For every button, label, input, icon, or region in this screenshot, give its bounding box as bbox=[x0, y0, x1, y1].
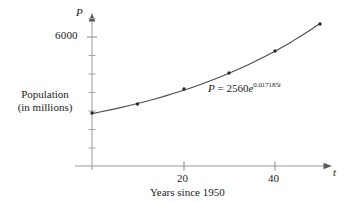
equation-exponent: 0.017185t bbox=[253, 81, 280, 89]
x-axis-symbol-label: t bbox=[333, 166, 336, 179]
curve-equation-annotation: P = 2560e0.017185t bbox=[208, 81, 281, 95]
data-point-20 bbox=[182, 87, 185, 90]
y-axis-tick-label-6000: 6000 bbox=[55, 29, 78, 42]
equation-exponent-variable: t bbox=[279, 81, 281, 89]
data-point-30 bbox=[227, 71, 230, 74]
y-axis-arrowhead bbox=[89, 13, 96, 22]
population-growth-chart: P t 6000 20 40 Population (in millions) … bbox=[0, 0, 346, 203]
exponential-fit-curve bbox=[92, 24, 320, 114]
x-axis-title: Years since 1950 bbox=[150, 186, 225, 199]
data-point-0 bbox=[90, 111, 93, 114]
y-axis-title-line2: (in millions) bbox=[6, 101, 84, 114]
data-point-10 bbox=[136, 102, 139, 105]
x-axis-tick-label-20: 20 bbox=[177, 172, 188, 185]
x-axis-tick-label-40: 40 bbox=[268, 172, 279, 185]
data-point-50 bbox=[318, 22, 321, 25]
y-axis-symbol-label: P bbox=[76, 6, 83, 19]
equation-exponent-coefficient: 0.017185 bbox=[253, 81, 278, 89]
equation-assignment: = 2560 bbox=[215, 82, 249, 94]
x-axis-arrowhead bbox=[324, 163, 333, 169]
y-axis-title-line1: Population bbox=[6, 88, 84, 101]
equation-variable-p: P bbox=[208, 82, 215, 94]
data-point-40 bbox=[273, 49, 276, 52]
y-axis-title: Population (in millions) bbox=[6, 88, 84, 114]
